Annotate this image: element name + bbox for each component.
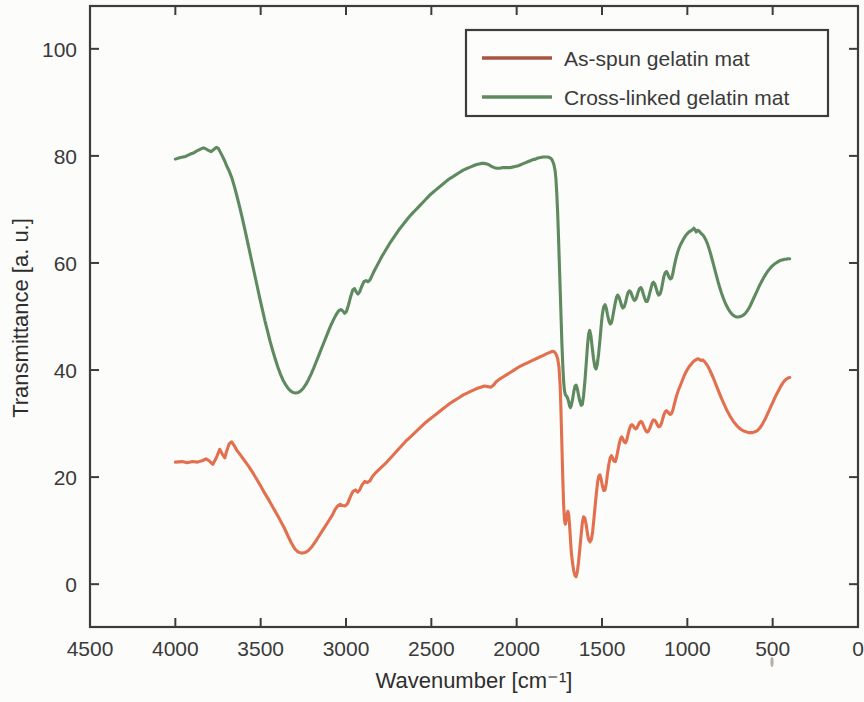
x-axis-title: Wavenumber [cm⁻¹] [375,668,572,693]
figure-root: 450040003500300025002000150010005000 020… [0,0,864,702]
x-tick-label-2500: 2500 [408,637,455,660]
y-tick-label-80: 80 [54,145,77,168]
x-tick-label-3000: 3000 [323,637,370,660]
legend-label-as-spun: As-spun gelatin mat [564,47,750,70]
y-tick-label-60: 60 [54,252,77,275]
y-tick-label-20: 20 [54,466,77,489]
y-axis-title: Transmittance [a. u.] [8,218,33,418]
x-tick-label-4500: 4500 [67,637,114,660]
scan-speck-artifact [770,657,773,667]
y-tick-label-100: 100 [42,38,77,61]
x-tick-label-1500: 1500 [579,637,626,660]
x-tick-label-0: 0 [852,637,864,660]
x-tick-label-2000: 2000 [493,637,540,660]
x-tick-label-4000: 4000 [152,637,199,660]
y-tick-label-0: 0 [65,573,77,596]
series-line-as-spun [175,351,789,576]
x-tick-label-500: 500 [755,637,790,660]
x-axis-tick-labels: 450040003500300025002000150010005000 [67,637,864,660]
y-axis-tick-labels: 020406080100 [42,38,77,596]
legend-label-cross-linked: Cross-linked gelatin mat [564,86,789,109]
x-tick-label-3500: 3500 [237,637,284,660]
x-tick-label-1000: 1000 [664,637,711,660]
series-line-cross-linked [175,147,789,407]
chart-legend[interactable]: As-spun gelatin mat Cross-linked gelatin… [466,30,828,116]
data-series-group [175,147,789,576]
y-tick-label-40: 40 [54,359,77,382]
ftir-spectrum-chart: 450040003500300025002000150010005000 020… [0,0,864,702]
